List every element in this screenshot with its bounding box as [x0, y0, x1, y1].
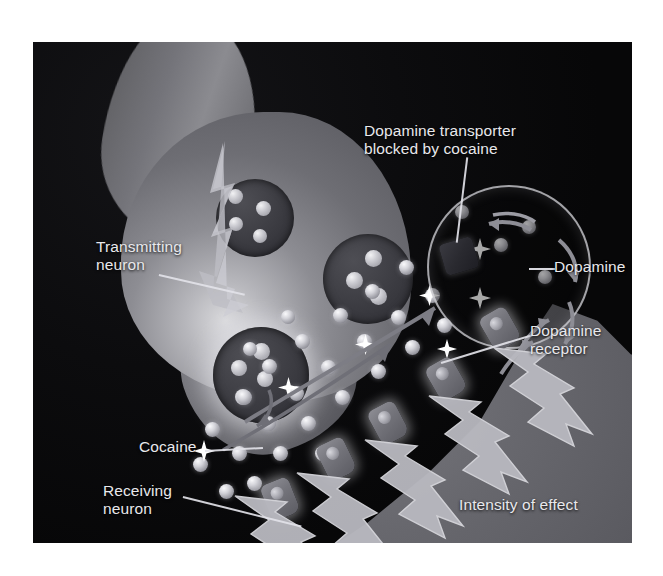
- label-dopamine: Dopamine: [554, 258, 625, 276]
- dopamine-sphere: [365, 250, 382, 267]
- page-root: Transmitting neuron Dopamine transporter…: [0, 0, 663, 576]
- label-receiving-neuron: Receiving neuron: [103, 482, 172, 519]
- label-transmitting-neuron: Transmitting neuron: [96, 238, 182, 275]
- label-cocaine: Cocaine: [139, 438, 197, 456]
- leader-line-dopamine: [529, 268, 555, 270]
- label-transporter-blocked-by-cocaine: Dopamine transporter blocked by cocaine: [364, 122, 516, 159]
- label-intensity-of-effect: Intensity of effect: [459, 496, 578, 514]
- synapse-diagram-figure: Transmitting neuron Dopamine transporter…: [33, 42, 632, 543]
- label-dopamine-receptor: Dopamine receptor: [530, 322, 601, 359]
- effect-intensity-arrow-icon: [229, 490, 359, 543]
